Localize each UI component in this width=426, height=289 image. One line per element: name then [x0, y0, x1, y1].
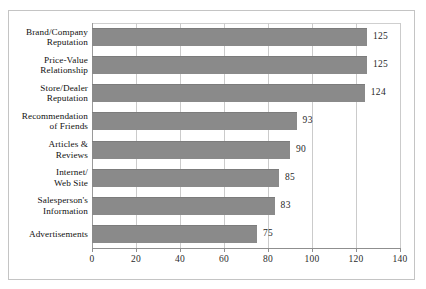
x-tick-label: 80	[248, 254, 288, 264]
bar-band: 93	[92, 107, 400, 135]
bar-value-label: 90	[296, 144, 306, 154]
category-label-line: Information	[2, 206, 88, 217]
x-tick-label: 100	[292, 254, 332, 264]
category-label-line: Price-Value	[2, 55, 88, 66]
category-label-line: Reviews	[2, 150, 88, 161]
category-label-line: Web Site	[2, 178, 88, 189]
x-tick-label: 140	[380, 254, 420, 264]
x-tick	[312, 248, 313, 252]
gridline	[400, 23, 401, 248]
bar-value-label: 124	[371, 87, 386, 97]
bar	[92, 169, 279, 187]
x-tick	[92, 248, 93, 252]
category-label: Advertisements	[2, 229, 88, 240]
x-tick-label: 120	[336, 254, 376, 264]
category-label-line: Salesperson's	[2, 195, 88, 206]
bar	[92, 225, 257, 243]
category-label-line: Store/Dealer	[2, 83, 88, 94]
bar-band: 90	[92, 136, 400, 164]
x-tick	[356, 248, 357, 252]
bar-value-label: 93	[303, 115, 313, 125]
category-axis-labels: Brand/CompanyReputationPrice-ValueRelati…	[0, 23, 88, 248]
x-tick	[136, 248, 137, 252]
bar-value-label: 83	[281, 200, 291, 210]
bar-band: 85	[92, 164, 400, 192]
category-label-line: Reputation	[2, 37, 88, 48]
category-label-line: Reputation	[2, 93, 88, 104]
bar-band: 75	[92, 220, 400, 248]
bar	[92, 84, 365, 102]
category-label-line: Recommendation	[2, 111, 88, 122]
bar	[92, 28, 367, 46]
x-tick-label: 60	[204, 254, 244, 264]
category-label-line: Advertisements	[2, 229, 88, 240]
category-label-line: Articles &	[2, 139, 88, 150]
category-label: Internet/Web Site	[2, 167, 88, 188]
bar-value-label: 125	[373, 31, 388, 41]
cropped-title-fragment	[30, 0, 130, 2]
x-tick-label: 20	[116, 254, 156, 264]
bar	[92, 141, 290, 159]
category-label-line: Brand/Company	[2, 27, 88, 38]
x-tick	[268, 248, 269, 252]
bar	[92, 197, 275, 215]
bar-band: 125	[92, 23, 400, 51]
category-label-line: of Friends	[2, 121, 88, 132]
bar-band: 83	[92, 192, 400, 220]
bar	[92, 56, 367, 74]
x-tick	[400, 248, 401, 252]
plot-area: 1251251249390858375	[92, 23, 400, 248]
x-axis-line	[92, 248, 401, 249]
category-label: Articles &Reviews	[2, 139, 88, 160]
category-label: Brand/CompanyReputation	[2, 27, 88, 48]
category-label-line: Relationship	[2, 65, 88, 76]
bar	[92, 112, 297, 130]
category-label-line: Internet/	[2, 167, 88, 178]
x-tick-label: 40	[160, 254, 200, 264]
x-tick-label: 0	[72, 254, 112, 264]
x-tick	[224, 248, 225, 252]
x-tick	[180, 248, 181, 252]
chart-figure: Brand/CompanyReputationPrice-ValueRelati…	[0, 0, 426, 289]
category-label: Salesperson'sInformation	[2, 195, 88, 216]
bar-value-label: 125	[373, 59, 388, 69]
category-label: Store/DealerReputation	[2, 83, 88, 104]
bar-value-label: 85	[285, 172, 295, 182]
category-label: Price-ValueRelationship	[2, 55, 88, 76]
bar-band: 124	[92, 79, 400, 107]
bar-band: 125	[92, 51, 400, 79]
category-label: Recommendationof Friends	[2, 111, 88, 132]
bar-value-label: 75	[263, 228, 273, 238]
